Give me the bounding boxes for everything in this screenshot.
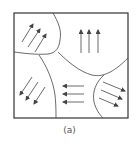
domain-top-right-arrows [81,30,98,53]
figure-caption: (a) [0,125,139,135]
domain-bottom-right-arrows [99,82,125,106]
domain-top-left-arrows [22,24,46,52]
domain-bottom-center-arrows [63,86,84,102]
domain-bottom-left-arrows [20,77,45,104]
